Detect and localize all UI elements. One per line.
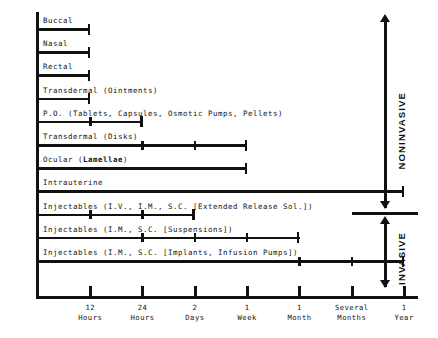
bar-end-cap bbox=[245, 163, 248, 174]
bar-row-label: Injectables (I.M., S.C. [Implants, Infus… bbox=[43, 248, 298, 257]
x-axis-tick-label: 1Year bbox=[374, 303, 434, 322]
noninvasive-arrow-head-up bbox=[380, 14, 390, 22]
bar-end-cap bbox=[140, 116, 143, 127]
bar-row: Transdermal (Disks) bbox=[38, 132, 418, 154]
x-axis-tick bbox=[141, 286, 144, 297]
bar-end-cap bbox=[88, 93, 91, 104]
tick-label-value: 1 bbox=[374, 303, 434, 313]
bar-end-cap bbox=[88, 24, 91, 35]
tick-label-unit: Month bbox=[270, 313, 330, 323]
bar-row: Transdermal (Ointments) bbox=[38, 86, 418, 108]
tick-label-value: 1 bbox=[270, 303, 330, 313]
bar-end-cap bbox=[88, 70, 91, 81]
x-axis-tick-label: 24Hours bbox=[113, 303, 173, 322]
bar-row-label: Injectables (I.M., S.C. [Suspensions]) bbox=[43, 225, 233, 234]
bar-end-cap bbox=[402, 186, 405, 197]
x-axis-tick-label: 12Hours bbox=[60, 303, 120, 322]
tick-label-value: Several bbox=[322, 303, 382, 313]
bar bbox=[38, 51, 90, 54]
tick-label-value: 24 bbox=[113, 303, 173, 313]
invasive-arrow-head-up bbox=[380, 216, 390, 224]
x-axis-tick bbox=[89, 286, 92, 297]
bar-end-cap bbox=[88, 47, 91, 58]
bar-interval-tick bbox=[141, 141, 144, 150]
tick-label-unit: Year bbox=[374, 313, 434, 323]
invasive-arrow-head-down bbox=[380, 280, 390, 288]
tick-label-unit: Months bbox=[322, 313, 382, 323]
tick-label-value: 12 bbox=[60, 303, 120, 313]
x-axis-tick-label: SeveralMonths bbox=[322, 303, 382, 322]
bar bbox=[38, 167, 247, 170]
x-axis-tick bbox=[403, 286, 406, 297]
x-axis-tick bbox=[246, 286, 249, 297]
bar-row-label: Transdermal (Ointments) bbox=[43, 86, 158, 95]
tick-label-unit: Week bbox=[217, 313, 277, 323]
tick-label-value: 2 bbox=[165, 303, 225, 313]
x-axis-tick bbox=[194, 286, 197, 297]
bar bbox=[38, 74, 90, 77]
bar-interval-tick bbox=[351, 257, 354, 266]
x-axis-tick-label: 2Days bbox=[165, 303, 225, 322]
x-axis-tick bbox=[298, 286, 301, 297]
bar-row-label: P.O. (Tablets, Capsules, Osmotic Pumps, … bbox=[43, 109, 283, 118]
bar-row-label: Intrauterine bbox=[43, 178, 103, 187]
invasive-arrow-line bbox=[384, 224, 387, 287]
bar-interval-tick bbox=[89, 210, 92, 219]
bar bbox=[38, 98, 90, 101]
bar-row-label: Nasal bbox=[43, 39, 68, 48]
bar-row: P.O. (Tablets, Capsules, Osmotic Pumps, … bbox=[38, 109, 418, 131]
bar-end-cap bbox=[297, 232, 300, 243]
bar bbox=[38, 214, 195, 217]
noninvasive-arrow-head-down bbox=[380, 201, 390, 209]
tick-label-value: 1 bbox=[217, 303, 277, 313]
bar-row-label: Injectables (I.V., I.M., S.C. [Extended … bbox=[43, 202, 313, 211]
bar-end-cap bbox=[245, 140, 248, 151]
bar bbox=[38, 237, 300, 240]
tick-label-unit: Days bbox=[165, 313, 225, 323]
bar-row-label: Ocular (Lamellae) bbox=[43, 155, 128, 164]
bar-row-label: Transdermal (Disks) bbox=[43, 132, 138, 141]
bar-row: Ocular (Lamellae) bbox=[38, 155, 418, 177]
bar-interval-tick bbox=[194, 141, 197, 150]
tick-label-unit: Hours bbox=[60, 313, 120, 323]
bar-interval-tick bbox=[141, 210, 144, 219]
bar-row: Nasal bbox=[38, 39, 418, 61]
noninvasive-label: NONINVASIVE bbox=[396, 92, 407, 170]
bar bbox=[38, 190, 404, 193]
noninvasive-arrow-line bbox=[384, 22, 387, 208]
bar-interval-tick bbox=[298, 257, 301, 266]
bar-row: Intrauterine bbox=[38, 178, 418, 200]
bar-row: Injectables (I.M., S.C. [Suspensions]) bbox=[38, 225, 418, 247]
bar-row: Rectal bbox=[38, 62, 418, 84]
bar-interval-tick bbox=[246, 233, 249, 242]
x-axis-line bbox=[36, 296, 418, 299]
invasiveness-divider bbox=[352, 212, 418, 215]
bar-interval-tick bbox=[89, 117, 92, 126]
bar-row-label: Rectal bbox=[43, 62, 73, 71]
bar bbox=[38, 260, 404, 263]
tick-label-unit: Hours bbox=[113, 313, 173, 323]
bar-interval-tick bbox=[194, 233, 197, 242]
invasive-label: INVASIVE bbox=[396, 232, 407, 285]
x-axis-tick bbox=[351, 286, 354, 297]
x-axis-tick-label: 1Month bbox=[270, 303, 330, 322]
bar-interval-tick bbox=[141, 233, 144, 242]
bar-row: Injectables (I.M., S.C. [Implants, Infus… bbox=[38, 248, 418, 270]
drug-delivery-duration-chart: 12Hours24Hours2Days1Week1MonthSeveralMon… bbox=[0, 0, 438, 338]
x-axis-tick-label: 1Week bbox=[217, 303, 277, 322]
bar-row-label: Buccal bbox=[43, 16, 73, 25]
bar bbox=[38, 28, 90, 31]
bar-row: Buccal bbox=[38, 16, 418, 38]
bar-end-cap bbox=[192, 209, 195, 220]
